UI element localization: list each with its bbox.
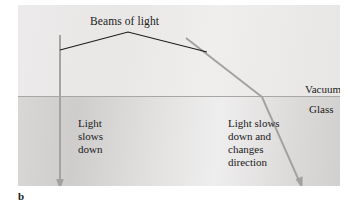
vertical-light-ray-arrow xyxy=(56,35,64,186)
wavefront-polyline xyxy=(60,32,207,52)
right-annotation-light-slows-and-changes-direction: Light slows down and changes direction xyxy=(228,117,280,168)
beams-of-light-label: Beams of light xyxy=(90,15,159,28)
light-ray-layer xyxy=(18,5,340,186)
panel-letter-label: b xyxy=(18,190,24,202)
figure-screenshot: Beams of light Vacuum Glass Light slows … xyxy=(0,0,348,212)
refraction-diagram-panel: Beams of light Vacuum Glass Light slows … xyxy=(18,5,340,186)
vacuum-label: Vacuum xyxy=(305,83,340,96)
left-annotation-light-slows-down: Light slows down xyxy=(78,117,103,156)
glass-label: Glass xyxy=(309,103,333,116)
